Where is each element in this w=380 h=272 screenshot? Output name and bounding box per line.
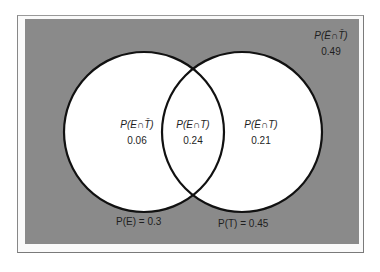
region-e-not-t-expr: P(E∩T̄) — [120, 119, 153, 130]
set-e-label: P(E) = 0.3 — [116, 216, 161, 227]
region-neither-value: 0.49 — [314, 45, 347, 58]
region-neither-expr: P(Ē∩T̄) — [314, 30, 347, 41]
region-not-e-t-expr: P(Ē∩T) — [244, 119, 277, 130]
region-e-and-t-value: 0.24 — [176, 134, 209, 147]
region-e-not-t: P(E∩T̄) 0.06 — [120, 118, 153, 147]
region-not-e-t: P(Ē∩T) 0.21 — [244, 118, 277, 147]
region-e-and-t: P(E∩T) 0.24 — [176, 118, 209, 147]
set-e-label-text: P(E) = 0.3 — [116, 216, 161, 227]
region-neither: P(Ē∩T̄) 0.49 — [314, 29, 347, 58]
region-e-not-t-value: 0.06 — [120, 134, 153, 147]
set-t-label: P(T) = 0.45 — [218, 218, 268, 229]
set-t-label-text: P(T) = 0.45 — [218, 218, 268, 229]
region-e-and-t-expr: P(E∩T) — [176, 119, 209, 130]
region-not-e-t-value: 0.21 — [244, 134, 277, 147]
